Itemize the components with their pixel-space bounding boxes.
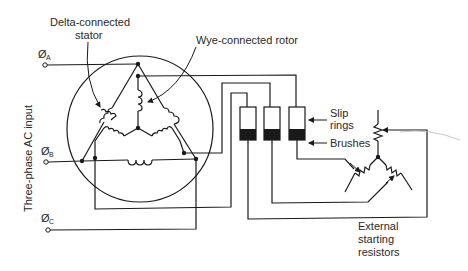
svg-text:starting: starting [358,233,394,245]
terminal-c [46,228,50,232]
stator-arrow [87,42,100,107]
svg-text:Delta-connected: Delta-connected [50,16,130,28]
svg-text:C: C [49,218,54,225]
phase-c-label: Ø C [41,212,54,225]
svg-text:rings: rings [330,119,354,131]
svg-text:A: A [46,54,51,61]
input-label: Three-phase AC input [22,105,34,212]
brush-lead-2 [272,140,388,203]
slip-ring-1 [240,107,256,140]
terminal-b [44,160,48,164]
stator-label: Delta-connected stator [50,16,130,41]
svg-text:Slip: Slip [330,107,348,119]
terminal-a [43,63,47,67]
rotor-lead-3 [95,93,247,209]
wire-phase-b [48,161,82,162]
brushes-label: Brushes [330,137,371,149]
wire-phase-a [47,64,138,65]
slip-ring-3 [289,107,305,140]
wire-phase-c [50,159,196,230]
phase-b-label: Ø B [41,145,54,158]
pencil-mark [400,131,460,140]
svg-text:stator: stator [75,29,103,41]
rotor-label: Wye-connected rotor [196,34,298,46]
starting-resistors [345,110,412,192]
wound-rotor-motor-diagram: Delta-connected stator Wye-connected rot… [0,0,468,271]
slip-ring-2 [264,107,280,140]
resistors-label: External starting resistors [358,220,400,258]
slip-rings-label: Slip rings [330,107,354,131]
svg-text:B: B [49,151,54,158]
rotor-lead-1 [138,75,296,107]
phase-a-label: Ø A [38,48,51,61]
svg-text:External: External [358,220,398,232]
rotor-lead-2 [184,83,270,153]
svg-text:resistors: resistors [358,246,400,258]
